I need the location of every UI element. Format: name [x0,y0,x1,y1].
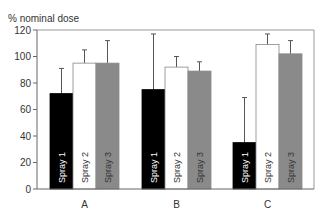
bar-label: Spray 1 [57,152,67,183]
y-tick-label: 40 [20,131,32,142]
bar-label: Spray 3 [286,152,296,183]
bar-label: Spray 1 [149,152,159,183]
bar-label: Spray 3 [195,152,205,183]
y-tick-label: 0 [25,184,31,195]
y-tick-label: 80 [20,78,32,89]
bar-label: Spray 2 [263,152,273,183]
x-tick-label: C [264,199,271,210]
bar-label: Spray 1 [240,152,250,183]
x-tick-label: B [173,199,180,210]
y-tick-label: 100 [14,51,31,62]
x-axis: ABC [37,189,314,210]
y-tick-label: 20 [20,157,32,168]
bar-label: Spray 2 [172,152,182,183]
bar-label: Spray 3 [103,152,113,183]
y-axis: 020406080100120 [14,25,37,195]
y-axis-label: % nominal dose [8,13,80,24]
x-tick-label: A [81,199,88,210]
y-tick-label: 60 [20,104,32,115]
bar-label: Spray 2 [80,152,90,183]
y-tick-label: 120 [14,25,31,36]
bars: Spray 1Spray 2Spray 3Spray 1Spray 2Spray… [50,34,302,189]
bar-chart: % nominal dose 020406080100120 Spray 1Sp… [0,0,330,217]
